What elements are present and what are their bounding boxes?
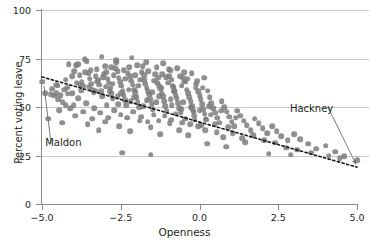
data-point (116, 124, 122, 130)
data-point (77, 82, 83, 88)
x-tick-0 (200, 205, 201, 210)
data-point (82, 57, 88, 63)
data-point (223, 144, 229, 150)
data-point (220, 134, 226, 140)
data-point (146, 68, 152, 74)
data-point (132, 72, 138, 78)
y-tick-100 (36, 10, 41, 11)
data-point (266, 151, 272, 157)
data-point (42, 91, 48, 97)
y-tick-0 (36, 204, 41, 205)
data-point (55, 83, 61, 89)
data-point (239, 135, 245, 141)
data-point (166, 66, 172, 72)
data-point (131, 95, 137, 101)
data-point (96, 127, 102, 133)
data-point (115, 101, 121, 107)
data-point (283, 145, 289, 151)
data-point (126, 87, 132, 93)
data-point (80, 109, 86, 115)
data-point (141, 103, 147, 109)
data-point (88, 67, 94, 73)
data-point (120, 150, 126, 156)
data-point (103, 84, 109, 90)
data-point (168, 117, 174, 123)
data-point (230, 130, 236, 136)
data-point (110, 81, 116, 87)
data-point (101, 74, 107, 80)
data-point (172, 88, 178, 94)
data-point (131, 109, 137, 115)
data-point (86, 84, 92, 90)
data-point (153, 99, 159, 105)
data-point (156, 118, 162, 124)
data-point (337, 156, 343, 162)
data-point (323, 143, 329, 149)
y-tick-25 (36, 156, 41, 157)
x-tick-label-2.5: 2.5 (271, 212, 286, 223)
x-axis-title: Openness (0, 226, 369, 238)
data-point (250, 132, 256, 138)
data-point (169, 102, 175, 108)
x-tick-label-0: 0.0 (192, 212, 207, 223)
data-point (180, 99, 186, 105)
data-point (112, 107, 118, 113)
y-tick-label-100: 100 (13, 5, 31, 16)
data-point (332, 149, 338, 155)
data-point (272, 140, 278, 146)
data-point (102, 119, 108, 125)
data-point (178, 106, 184, 112)
data-point (156, 94, 162, 100)
data-point (135, 83, 141, 89)
data-point (66, 62, 72, 68)
data-point (233, 115, 239, 121)
data-point (261, 137, 267, 143)
data-point (291, 131, 297, 137)
y-axis-title: Percent voting leave (13, 48, 24, 178)
data-point (100, 94, 106, 100)
data-point (127, 128, 133, 134)
data-point (138, 114, 144, 120)
data-point (109, 64, 115, 70)
data-point (71, 68, 77, 74)
data-point (93, 88, 99, 94)
data-point (69, 73, 75, 79)
data-point (150, 106, 156, 112)
data-point (83, 100, 89, 106)
x-tick-label--5: −5.0 (30, 212, 53, 223)
data-point (162, 113, 168, 119)
data-point (326, 153, 332, 159)
data-point (187, 122, 193, 128)
data-point (159, 85, 165, 91)
data-point (107, 89, 113, 95)
data-point (126, 64, 132, 70)
scatter-plot-figure: 0255075100 −5.0−2.50.02.55.0 Maldon Hack… (0, 0, 369, 241)
data-point (91, 105, 97, 111)
data-point (212, 122, 218, 128)
data-point (149, 90, 155, 96)
data-point (285, 137, 291, 143)
x-tick--5 (42, 205, 43, 210)
x-tick--2.5 (121, 205, 122, 210)
data-point (144, 97, 150, 103)
data-point (102, 63, 108, 69)
data-point (39, 79, 45, 85)
data-point (279, 133, 285, 139)
annotation-maldon: Maldon (45, 137, 81, 148)
data-point (94, 79, 100, 85)
y-tick-75 (36, 59, 41, 60)
x-tick-label--2.5: −2.5 (109, 212, 132, 223)
data-point (197, 107, 203, 113)
data-point (219, 98, 225, 104)
data-point (177, 73, 183, 79)
data-point (294, 147, 300, 153)
data-point (205, 141, 211, 147)
data-point (115, 68, 121, 74)
y-tick-label-0: 0 (25, 199, 31, 210)
data-point (148, 125, 154, 131)
data-point (90, 116, 96, 122)
data-point (143, 60, 149, 66)
data-point (305, 141, 311, 147)
data-point (69, 91, 75, 97)
data-point (160, 71, 166, 77)
